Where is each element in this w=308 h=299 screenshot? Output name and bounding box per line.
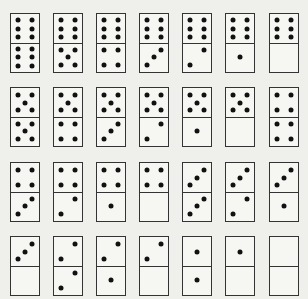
domino-top-half: [11, 163, 39, 192]
pip: [73, 270, 78, 275]
pip: [73, 196, 78, 201]
pip: [195, 129, 200, 134]
domino-top-half: [11, 88, 39, 117]
pip: [66, 100, 71, 105]
pip: [245, 26, 250, 31]
domino-bottom-half: [140, 117, 168, 146]
pip: [102, 35, 107, 40]
domino-top-half: [11, 237, 39, 266]
domino-bottom-half: [54, 43, 82, 72]
domino-top-half: [140, 237, 168, 266]
pip: [195, 278, 200, 283]
pip: [30, 18, 35, 23]
pip: [30, 55, 35, 60]
domino-6-3: [139, 13, 169, 73]
pip: [116, 35, 121, 40]
domino-bottom-half: [270, 117, 298, 146]
pip: [289, 108, 294, 113]
pip: [102, 136, 107, 141]
pip: [16, 46, 21, 51]
pip: [202, 26, 207, 31]
pip: [159, 18, 164, 23]
domino-bottom-half: [140, 192, 168, 221]
pip: [109, 100, 114, 105]
pip: [202, 108, 207, 113]
pip: [59, 93, 64, 98]
pip: [289, 168, 294, 173]
pip: [73, 62, 78, 67]
pip: [188, 183, 193, 188]
pip: [16, 108, 21, 113]
domino-5-0: [225, 87, 255, 147]
pip: [73, 93, 78, 98]
pip: [116, 18, 121, 23]
domino-bottom-half: [183, 117, 211, 146]
pip: [202, 168, 207, 173]
domino-top-half: [183, 237, 211, 266]
domino-top-half: [270, 163, 298, 192]
domino-top-half: [226, 88, 254, 117]
domino-4-2: [53, 162, 83, 222]
pip: [145, 93, 150, 98]
pip: [59, 257, 64, 262]
pip: [59, 35, 64, 40]
pip: [238, 100, 243, 105]
domino-top-half: [11, 14, 39, 43]
domino-3-2: [225, 162, 255, 222]
pip: [245, 35, 250, 40]
pip: [59, 183, 64, 188]
domino-bottom-half: [140, 266, 168, 295]
domino-top-half: [54, 88, 82, 117]
pip: [16, 35, 21, 40]
domino-top-half: [226, 237, 254, 266]
domino-top-half: [183, 163, 211, 192]
pip: [202, 196, 207, 201]
domino-2-2: [53, 236, 83, 296]
pip: [159, 183, 164, 188]
domino-top-half: [270, 88, 298, 117]
pip: [152, 100, 157, 105]
pip: [275, 121, 280, 126]
domino-top-half: [97, 14, 125, 43]
pip: [202, 18, 207, 23]
pip: [188, 18, 193, 23]
domino-bottom-half: [140, 43, 168, 72]
pip: [73, 35, 78, 40]
pip: [245, 108, 250, 113]
pip: [109, 278, 114, 283]
pip: [102, 168, 107, 173]
domino-top-half: [226, 14, 254, 43]
pip: [289, 93, 294, 98]
domino-top-half: [140, 14, 168, 43]
pip: [59, 121, 64, 126]
pip: [289, 121, 294, 126]
pip: [30, 196, 35, 201]
pip: [109, 204, 114, 209]
pip: [245, 18, 250, 23]
pip: [159, 93, 164, 98]
domino-4-3: [10, 162, 40, 222]
pip: [30, 183, 35, 188]
domino-bottom-half: [270, 266, 298, 295]
domino-bottom-half: [97, 266, 125, 295]
pip: [245, 168, 250, 173]
pip: [159, 26, 164, 31]
pip: [275, 136, 280, 141]
pip: [145, 35, 150, 40]
pip: [30, 136, 35, 141]
pip: [16, 55, 21, 60]
pip: [116, 26, 121, 31]
pip: [73, 242, 78, 247]
pip: [16, 211, 21, 216]
pip: [159, 242, 164, 247]
domino-6-1: [225, 13, 255, 73]
pip: [195, 175, 200, 180]
pip: [116, 62, 121, 67]
domino-top-half: [183, 14, 211, 43]
pip: [231, 18, 236, 23]
pip: [73, 168, 78, 173]
pip: [188, 26, 193, 31]
pip: [275, 26, 280, 31]
pip: [102, 62, 107, 67]
pip: [16, 93, 21, 98]
